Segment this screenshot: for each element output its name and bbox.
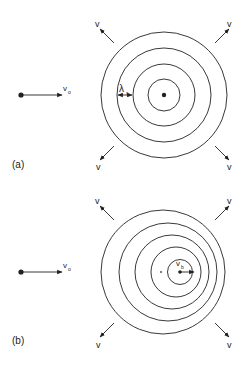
- wave-speed-arrow-ne: [215, 206, 229, 220]
- wavefronts-b: v b: [101, 210, 225, 334]
- observer-velocity-sub: o: [68, 89, 71, 95]
- doppler-diagram: v o λ s v v v v (a): [0, 0, 247, 366]
- panel-a: v o λ s v v v v (a): [12, 19, 232, 172]
- observer-b: v o: [18, 261, 71, 275]
- wave-speed-label-se: v: [227, 340, 232, 350]
- wave-speed-label-nw: v: [95, 19, 100, 29]
- wave-speed-arrows-b: v v v v: [95, 196, 232, 350]
- source-dot: [162, 93, 166, 97]
- wavefront: [101, 210, 225, 334]
- panel-label-b: (b): [12, 335, 24, 346]
- source-velocity-sub: b: [181, 264, 184, 270]
- observer-a: v o: [18, 84, 71, 98]
- source-velocity-label: v: [176, 259, 180, 268]
- observer-velocity-sub: o: [68, 266, 71, 272]
- wavefront: [135, 235, 209, 309]
- wavefront: [119, 223, 217, 321]
- observer-velocity-label: v: [63, 261, 67, 270]
- wave-speed-arrow-sw: [100, 146, 114, 160]
- wave-speed-arrow-nw: [100, 29, 114, 43]
- wave-speed-arrow-nw: [100, 206, 114, 220]
- panel-label-a: (a): [12, 159, 24, 170]
- panel-b: v o v b v v v v (b): [12, 196, 232, 350]
- wave-speed-arrow-se: [215, 146, 229, 160]
- observer-velocity-label: v: [63, 84, 67, 93]
- wave-speed-label-ne: v: [227, 19, 232, 29]
- wave-speed-label-se: v: [227, 162, 232, 172]
- wave-speed-label-nw: v: [95, 196, 100, 206]
- wave-speed-arrow-sw: [100, 323, 114, 337]
- original-source-position: [160, 271, 162, 273]
- wavelength-marker: λ s: [118, 83, 132, 96]
- wave-speed-label-ne: v: [227, 196, 232, 206]
- wavelength-label: λ: [119, 83, 124, 94]
- wave-speed-arrow-ne: [215, 29, 229, 43]
- wave-speed-label-sw: v: [96, 162, 101, 172]
- wave-speed-arrow-se: [215, 323, 229, 337]
- wave-speed-label-sw: v: [96, 340, 101, 350]
